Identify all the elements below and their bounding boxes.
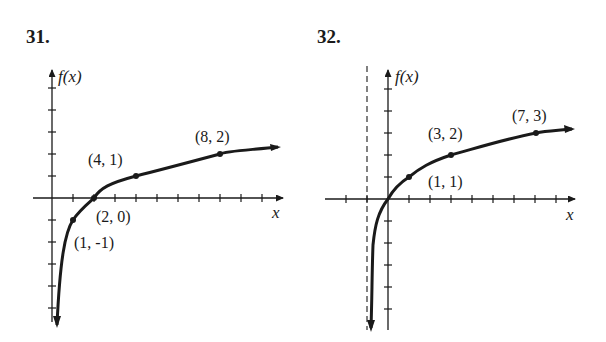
point-label: (1, 1) (428, 173, 463, 191)
point-label: (4, 1) (88, 151, 123, 169)
point-label: (7, 3) (512, 107, 547, 125)
x-axis-label: x (565, 205, 574, 224)
graph-31: f(x) x (8, 2) (4, 1) (2, 0) (1, -1) (33, 67, 283, 328)
curve-arrow-down (367, 320, 375, 332)
point-label: (3, 2) (428, 125, 463, 143)
curve-32 (371, 129, 572, 328)
graph-32: f(x) x (7, 3) (3, 2) (1, 1) (270, 0, 575, 332)
point-label: (8, 2) (195, 128, 230, 146)
point-label: (1, -1) (74, 234, 114, 252)
graphs: f(x) x (8, 2) (4, 1) (2, 0) (1, -1) (0, 0, 606, 342)
curve-arrow-down (53, 316, 61, 328)
y-axis-label: f(x) (58, 67, 82, 86)
curve-arrow-right (270, 144, 281, 151)
x-axis-label: x (271, 203, 280, 222)
point-label: (2, 0) (96, 208, 131, 226)
curve-arrow-right (564, 125, 575, 133)
y-axis-label: f(x) (395, 67, 419, 86)
